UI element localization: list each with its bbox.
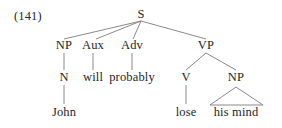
tree-node-vp: VP xyxy=(198,39,214,52)
edge-group xyxy=(64,21,236,104)
tree-edge-vp-to-np2 xyxy=(206,53,236,70)
tree-node-probably: probably xyxy=(109,71,155,84)
tree-triangle-np2-to-hismind xyxy=(210,87,263,105)
tree-node-n: N xyxy=(59,71,68,84)
tree-node-s: S xyxy=(137,8,144,21)
tree-edge-vp-to-v xyxy=(186,53,206,70)
tree-node-np2: NP xyxy=(228,71,244,84)
tree-node-will: will xyxy=(83,71,103,84)
tree-node-v: V xyxy=(181,71,190,84)
tree-node-np1: NP xyxy=(56,39,72,52)
tree-node-adv: Adv xyxy=(121,39,143,52)
example-number-label: (141) xyxy=(14,10,42,23)
tree-node-aux: Aux xyxy=(82,39,104,52)
tree-node-hismind: his mind xyxy=(214,106,259,119)
triangle-group xyxy=(210,87,263,105)
tree-node-john: John xyxy=(52,106,76,119)
syntax-tree-figure: (141) SNPAuxAdvVPNwillprobablyVNPJohnlos… xyxy=(0,0,282,128)
tree-edge-s-to-vp xyxy=(141,21,206,39)
tree-node-lose: lose xyxy=(176,106,197,119)
